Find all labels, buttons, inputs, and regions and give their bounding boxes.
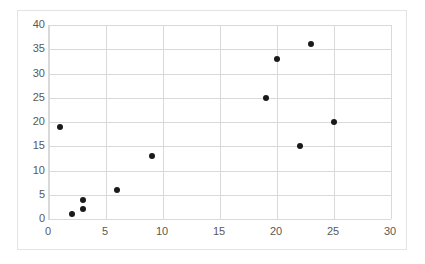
y-tick-label-15: 15 bbox=[19, 140, 45, 151]
gridline-y-0 bbox=[49, 219, 391, 220]
x-tick-label-30: 30 bbox=[370, 226, 410, 237]
y-tick-label-30: 30 bbox=[19, 68, 45, 79]
gridline-x-15 bbox=[220, 25, 221, 219]
y-axis-tick-labels: 0510152025303540 bbox=[18, 25, 45, 220]
data-point bbox=[114, 187, 120, 193]
data-point bbox=[69, 211, 75, 217]
x-tick-label-10: 10 bbox=[142, 226, 182, 237]
data-point bbox=[331, 119, 337, 125]
x-tick-label-5: 5 bbox=[85, 226, 125, 237]
y-tick-label-0: 0 bbox=[19, 213, 45, 224]
data-point bbox=[149, 153, 155, 159]
data-point bbox=[80, 197, 86, 203]
gridline-x-5 bbox=[106, 25, 107, 219]
gridline-x-30 bbox=[391, 25, 392, 219]
y-tick-label-5: 5 bbox=[19, 189, 45, 200]
x-tick-label-0: 0 bbox=[28, 226, 68, 237]
scatter-plot-area bbox=[48, 25, 391, 220]
y-tick-label-25: 25 bbox=[19, 92, 45, 103]
x-tick-label-25: 25 bbox=[313, 226, 353, 237]
y-tick-label-40: 40 bbox=[19, 19, 45, 30]
data-point bbox=[80, 206, 86, 212]
data-point bbox=[57, 124, 63, 130]
x-tick-label-15: 15 bbox=[199, 226, 239, 237]
x-tick-label-20: 20 bbox=[256, 226, 296, 237]
x-axis-tick-labels: 051015202530 bbox=[48, 226, 391, 242]
gridline-x-10 bbox=[163, 25, 164, 219]
y-tick-label-20: 20 bbox=[19, 116, 45, 127]
data-point bbox=[274, 56, 280, 62]
y-tick-label-10: 10 bbox=[19, 165, 45, 176]
data-point bbox=[308, 41, 314, 47]
gridline-x-0 bbox=[49, 25, 50, 219]
data-point bbox=[297, 143, 303, 149]
y-tick-label-35: 35 bbox=[19, 43, 45, 54]
gridline-x-20 bbox=[277, 25, 278, 219]
data-point bbox=[263, 95, 269, 101]
chart-frame: 0510152025303540 051015202530 bbox=[17, 10, 407, 250]
